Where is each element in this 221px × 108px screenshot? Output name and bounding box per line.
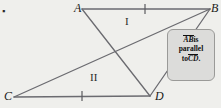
segment-notation-CD: CD	[188, 54, 198, 63]
callout-line-2: parallel	[170, 45, 212, 53]
callout-line-1-text: is	[194, 35, 199, 44]
callout-line-3-suffix: .	[198, 54, 200, 63]
region-label-one: I	[125, 16, 129, 27]
segment-notation-AB: AB	[183, 35, 193, 44]
vertex-label-C: C	[4, 90, 12, 102]
region-label-two: II	[90, 72, 97, 83]
vertex-label-D: D	[155, 90, 164, 102]
callout-line-3: toCD.	[170, 54, 212, 63]
callout-line-1: ABis	[170, 35, 212, 44]
vertex-label-B: B	[211, 2, 218, 14]
parallel-callout-box: ABis parallel toCD.	[167, 29, 215, 81]
vertex-label-A: A	[74, 2, 81, 14]
